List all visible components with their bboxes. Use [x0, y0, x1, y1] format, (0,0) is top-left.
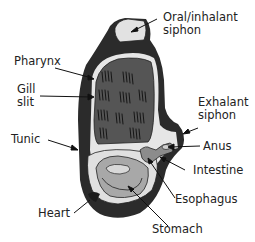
- label-tunic: Tunic: [11, 133, 40, 146]
- label-gill-slit-line2: slit: [17, 96, 36, 109]
- label-stomach: Stomach: [152, 223, 203, 236]
- oral-siphon-opening: [115, 19, 146, 42]
- label-esophagus: Esophagus: [175, 193, 238, 206]
- label-gill-slit: Gill slit: [17, 83, 36, 109]
- label-exhalant-siphon-line2: siphon: [198, 109, 248, 122]
- label-oral-siphon: Oral/inhalant siphon: [163, 11, 238, 37]
- label-exhalant-siphon: Exhalant siphon: [198, 96, 248, 122]
- label-pharynx: Pharynx: [14, 55, 61, 68]
- label-heart: Heart: [38, 207, 70, 220]
- label-intestine: Intestine: [193, 164, 243, 177]
- label-anus: Anus: [203, 140, 231, 153]
- stomach-shape: [96, 156, 148, 198]
- label-oral-siphon-line2: siphon: [163, 24, 238, 37]
